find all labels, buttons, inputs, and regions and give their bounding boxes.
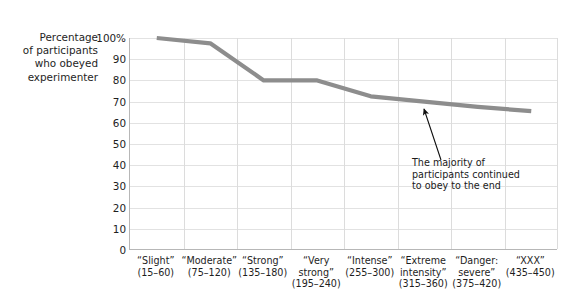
y-axis-tick-label: 50 (86, 139, 126, 149)
y-axis-tick-label: 20 (86, 203, 126, 213)
annotation-arrow-icon (410, 100, 540, 162)
y-axis-tick-label: 80 (86, 75, 126, 85)
y-axis-tick-label: 0 (86, 245, 126, 255)
y-axis-tick-labels: 100%9080706050403020100 (84, 0, 126, 292)
y-axis-tick-label: 100% (86, 33, 126, 43)
x-axis-tick-label: “XXX” (435–450) (496, 255, 566, 278)
y-axis-tick-label: 10 (86, 224, 126, 234)
y-axis-tick-label: 30 (86, 181, 126, 191)
obedience-line-chart: Percentage of participants who obeyed ex… (0, 0, 580, 292)
y-axis-tick-label: 90 (86, 54, 126, 64)
y-axis-tick-label: 40 (86, 160, 126, 170)
x-axis-tick-labels: “Slight” (15–60)“Moderate” (75–120)“Stro… (0, 255, 580, 292)
y-axis-tick-label: 70 (86, 97, 126, 107)
annotation-label: The majority of participants continued t… (412, 157, 542, 192)
y-axis-tick-label: 60 (86, 118, 126, 128)
